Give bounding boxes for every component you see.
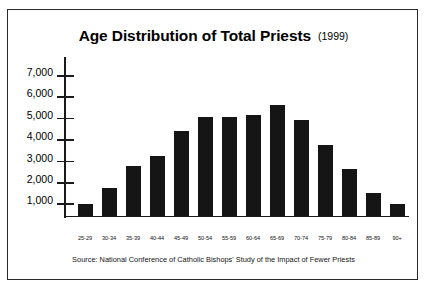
bar <box>102 188 117 216</box>
bar <box>78 204 93 216</box>
bar <box>318 145 333 217</box>
y-tick-label: 5,000 <box>27 110 53 121</box>
y-tick-label: 1,000 <box>27 195 53 206</box>
bar-column <box>385 57 409 216</box>
page-title: Age Distribution of Total Priests <box>79 27 311 44</box>
x-tick-label: 90+ <box>385 235 409 241</box>
chart-title-row: Age Distribution of Total Priests(1999) <box>8 27 419 45</box>
chart-frame: Age Distribution of Total Priests(1999) … <box>7 9 418 280</box>
bar-column <box>337 57 361 216</box>
bar-column <box>313 57 337 216</box>
x-tick-label: 30-34 <box>97 235 121 241</box>
y-tick-label: 6,000 <box>27 88 53 99</box>
bar-column <box>217 57 241 216</box>
x-tick-label: 65-69 <box>265 235 289 241</box>
bar-column <box>265 57 289 216</box>
bar <box>246 115 261 216</box>
bar <box>174 131 189 216</box>
bar <box>342 169 357 216</box>
bar <box>150 156 165 216</box>
x-tick-label: 50-54 <box>193 235 217 241</box>
bar-column <box>121 57 145 216</box>
x-tick-label: 70-74 <box>289 235 313 241</box>
bar <box>294 120 309 216</box>
bar <box>366 193 381 216</box>
x-tick-label: 75-79 <box>313 235 337 241</box>
x-tick-label: 40-44 <box>145 235 169 241</box>
x-tick-label: 80-84 <box>337 235 361 241</box>
x-tick-label: 25-29 <box>73 235 97 241</box>
bar-column <box>97 57 121 216</box>
bar <box>198 117 213 216</box>
x-tick-label: 60-64 <box>241 235 265 241</box>
source-note: Source: National Conference of Catholic … <box>8 255 419 264</box>
x-tick-label: 85-89 <box>361 235 385 241</box>
bar-column <box>169 57 193 216</box>
chart-page: Age Distribution of Total Priests(1999) … <box>0 0 430 292</box>
y-axis-line <box>64 57 66 218</box>
bar <box>270 105 285 216</box>
y-tick-label: 3,000 <box>27 153 53 164</box>
y-tick-label: 4,000 <box>27 131 53 142</box>
y-tick-label: 2,000 <box>27 174 53 185</box>
bar <box>390 204 405 216</box>
bar-column <box>145 57 169 216</box>
x-tick-label: 35-39 <box>121 235 145 241</box>
y-tick-label: 7,000 <box>27 67 53 78</box>
bar-column <box>193 57 217 216</box>
bar-column <box>289 57 313 216</box>
chart-year-label: (1999) <box>318 30 348 42</box>
x-tick-label: 45-49 <box>169 235 193 241</box>
bar <box>222 117 237 216</box>
bar <box>126 166 141 216</box>
bar-column <box>73 57 97 216</box>
x-tick-label: 55-59 <box>217 235 241 241</box>
bar-column <box>241 57 265 216</box>
x-axis-labels: 25-2930-3435-3940-4445-4950-5455-5960-64… <box>73 235 409 241</box>
bar-series <box>73 57 409 216</box>
plot-area: 7,000 6,000 5,000 4,000 3,000 2,000 <box>64 57 411 216</box>
bar-column <box>361 57 385 216</box>
